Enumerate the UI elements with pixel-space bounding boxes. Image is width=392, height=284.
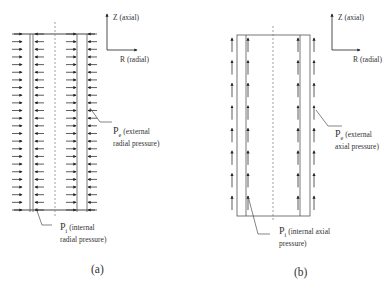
pe-label-a: Pe (external radial pressure)	[113, 126, 159, 148]
pe-label-b: Pe (external axial pressure)	[335, 129, 379, 151]
pi-label-b: Pi (internal axial pressure)	[279, 226, 330, 248]
figure-a-cylinder	[12, 22, 97, 218]
r-axis-label-b: R (radial)	[353, 55, 382, 64]
leader-pi-a	[36, 208, 52, 225]
leader-pe-b	[316, 110, 342, 126]
z-axis-label-b: Z (axial)	[338, 13, 364, 22]
caption-b: (b)	[294, 266, 307, 278]
leader-pe-a	[90, 108, 112, 122]
leader-pi-b	[248, 196, 270, 234]
figure-b-cylinder	[232, 26, 314, 222]
pressure-diagram	[0, 0, 392, 284]
radial-pressure-arrows	[12, 34, 97, 210]
r-axis-label-a: R (radial)	[120, 55, 149, 64]
caption-a: (a)	[91, 263, 104, 275]
z-axis-label-a: Z (axial)	[113, 13, 139, 22]
pi-label-a: Pi (internal radial pressure)	[60, 222, 106, 244]
